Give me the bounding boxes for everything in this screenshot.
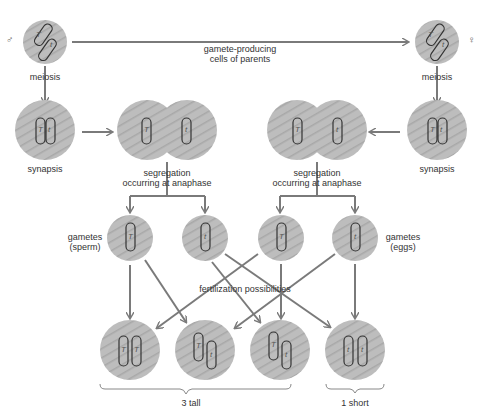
anaphase-cell-left [117,100,217,160]
synapsis-cell-left [15,100,75,160]
offspring-tt [325,320,385,380]
allele-label: t [336,125,338,134]
allele-label: T [271,340,276,349]
allele-label: T [196,341,201,350]
allele-label: T [428,30,433,39]
meiosis-label-left: meiosis [15,72,75,82]
allele-label: t [210,350,212,359]
short-brace [326,384,384,393]
meiosis-label-right: meiosis [407,72,467,82]
gametes-eggs-label-2: (eggs) [378,242,428,252]
allele-label: T [295,125,300,134]
allele-label: T [144,125,149,134]
gamete-label-line1: gamete-producing [190,44,290,54]
male-symbol: ♂ [6,34,14,45]
allele-label: t [354,232,356,241]
offspring-Tt-2 [250,320,310,380]
allele-label: T [430,125,435,134]
allele-label: t [361,345,363,354]
allele-label: t [442,40,444,49]
synapsis-cell-right [407,100,467,160]
gamete-label-line2: cells of parents [190,54,290,64]
segregation-label-right-2: occurring at anaphase [267,178,367,188]
female-symbol: ♀ [468,34,476,45]
allele-label: T [279,232,284,241]
segregation-label-left-2: occurring at anaphase [117,178,217,188]
allele-label: t [185,125,187,134]
fertilization-label: fertilization possibilities [185,284,305,294]
synapsis-label-left: synapsis [15,164,75,174]
anaphase-cell-right [267,100,367,160]
tall-count-label: 3 tall [166,398,216,408]
gametes-sperm-label-1: gametes [60,232,110,242]
parent-cell-female [415,20,459,64]
allele-label: T [134,345,139,354]
gametes-eggs-label-1: gametes [378,232,428,242]
allele-label: t [204,232,206,241]
segregation-label-left-1: segregation [117,168,217,178]
tall-brace [100,384,291,394]
short-count-label: 1 short [330,398,380,408]
offspring-TT [100,320,160,380]
segregation-label-right-1: segregation [267,168,367,178]
gametes-sperm-label-2: (sperm) [60,242,110,252]
synapsis-label-right: synapsis [407,164,467,174]
allele-label: T [36,30,41,39]
allele-label: t [50,40,52,49]
allele-label: t [347,345,349,354]
allele-label: t [48,125,50,134]
allele-label: t [440,125,442,134]
allele-label: T [121,345,126,354]
allele-label: t [285,350,287,359]
allele-label: T [38,125,43,134]
offspring-Tt-1 [175,320,235,380]
allele-label: T [128,232,133,241]
parent-cell-male [23,20,67,64]
